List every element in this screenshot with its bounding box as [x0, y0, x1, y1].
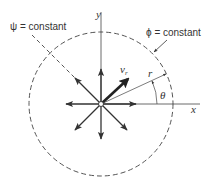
source-flow-diagram: y x ψ = constant ϕ = constant vr r θ — [0, 0, 208, 186]
arrow-southwest — [75, 104, 101, 130]
source-point — [99, 102, 104, 107]
arrow-northwest — [75, 78, 101, 104]
phi-constant-label: ϕ = constant — [146, 27, 201, 38]
vr-sub: r — [125, 69, 128, 77]
theta-arc — [152, 81, 157, 104]
y-axis-label: y — [95, 8, 101, 20]
radius-label: r — [148, 67, 153, 79]
phi-constant-pointer — [154, 40, 167, 52]
radial-velocity-arrow — [101, 79, 128, 104]
arrow-southeast — [101, 104, 127, 130]
theta-label: θ — [160, 89, 166, 101]
radius-line — [101, 74, 166, 104]
psi-constant-label: ψ = constant — [10, 21, 67, 32]
radial-velocity-label: vr — [120, 63, 128, 77]
psi-constant-streamline — [32, 35, 78, 81]
x-axis-label: x — [190, 103, 196, 115]
